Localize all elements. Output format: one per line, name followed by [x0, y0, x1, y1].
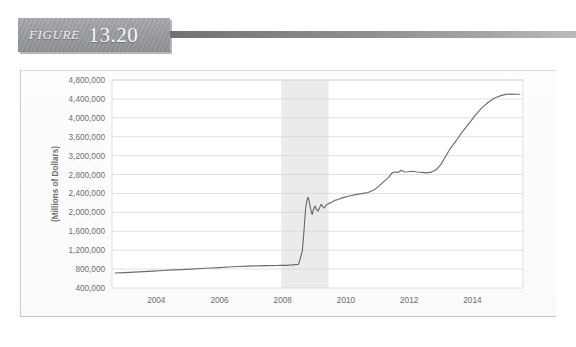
figure-banner: FIGURE 13.20: [18, 18, 170, 52]
figure-frame: [20, 70, 556, 316]
figure-baseline-rule: [20, 316, 556, 317]
banner-rule-decoration: [170, 31, 576, 38]
figure-number: 13.20: [89, 23, 139, 48]
figure-label: FIGURE: [29, 27, 80, 43]
